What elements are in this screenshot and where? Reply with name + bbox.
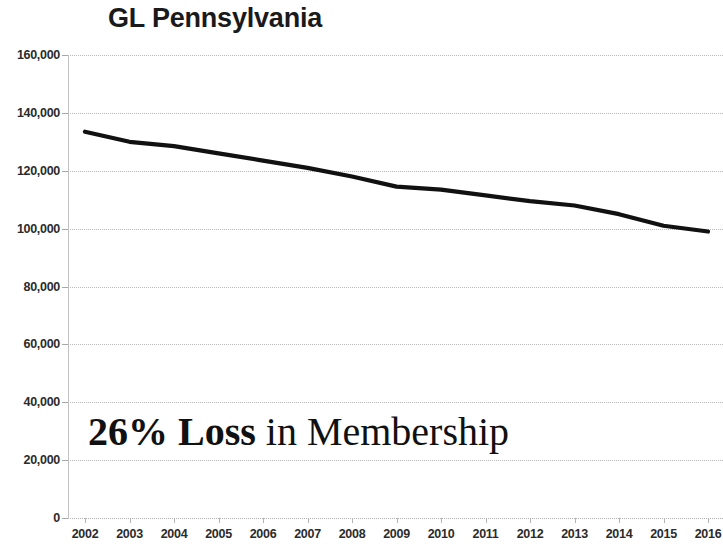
x-tick-2015	[664, 518, 665, 523]
x-tick-2016	[708, 518, 709, 523]
x-tick-2014	[619, 518, 620, 523]
y-axis-label-40000: 40,000	[2, 395, 60, 409]
x-tick-2003	[130, 518, 131, 523]
x-axis-label-2005: 2005	[205, 527, 232, 541]
x-tick-2008	[352, 518, 353, 523]
y-axis-labels: 020,00040,00060,00080,000100,000120,0001…	[0, 0, 60, 552]
chart-title: GL Pennsylvania	[108, 1, 322, 35]
y-axis-label-120000: 120,000	[2, 164, 60, 178]
y-tick-100000	[62, 229, 68, 230]
x-axis-label-2011: 2011	[473, 527, 499, 541]
gridline-60000	[68, 344, 723, 345]
x-axis-label-2010: 2010	[428, 527, 455, 541]
x-tick-2013	[575, 518, 576, 523]
loss-annotation-regular: in Membership	[256, 409, 509, 454]
y-tick-0	[62, 518, 68, 519]
x-axis-label-2012: 2012	[517, 527, 544, 541]
x-tick-2002	[85, 518, 86, 523]
y-axis-label-20000: 20,000	[2, 453, 60, 467]
y-axis-label-60000: 60,000	[2, 337, 60, 351]
x-tick-2010	[441, 518, 442, 523]
gridline-0	[68, 518, 723, 519]
y-tick-40000	[62, 402, 68, 403]
x-axis-label-2004: 2004	[161, 527, 188, 541]
y-axis-label-80000: 80,000	[2, 280, 60, 294]
x-axis-label-2015: 2015	[650, 527, 677, 541]
gridline-140000	[68, 113, 723, 114]
gridline-20000	[68, 460, 723, 461]
x-tick-2004	[174, 518, 175, 523]
y-tick-60000	[62, 344, 68, 345]
x-tick-2005	[219, 518, 220, 523]
y-axis-label-0: 0	[2, 511, 60, 525]
y-tick-160000	[62, 55, 68, 56]
x-tick-2012	[530, 518, 531, 523]
y-axis-label-100000: 100,000	[2, 222, 60, 236]
x-axis-label-2016: 2016	[695, 527, 722, 541]
x-axis-label-2008: 2008	[339, 527, 366, 541]
gridline-120000	[68, 171, 723, 172]
y-tick-20000	[62, 460, 68, 461]
y-tick-80000	[62, 287, 68, 288]
loss-annotation-bold: 26% Loss	[88, 409, 256, 454]
x-axis-label-2003: 2003	[116, 527, 143, 541]
x-axis-label-2014: 2014	[606, 527, 633, 541]
x-tick-2007	[308, 518, 309, 523]
gridline-160000	[68, 55, 723, 56]
gridline-40000	[68, 402, 723, 403]
gridline-80000	[68, 287, 723, 288]
x-tick-2009	[397, 518, 398, 523]
chart-page: GL Pennsylvania 020,00040,00060,00080,00…	[0, 0, 723, 552]
x-tick-2006	[263, 518, 264, 523]
y-tick-140000	[62, 113, 68, 114]
x-axis-label-2002: 2002	[72, 527, 99, 541]
y-tick-120000	[62, 171, 68, 172]
gridline-100000	[68, 229, 723, 230]
loss-annotation: 26% Loss in Membership	[88, 408, 509, 456]
x-axis-label-2009: 2009	[383, 527, 410, 541]
y-axis-label-140000: 140,000	[2, 106, 60, 120]
x-axis-label-2013: 2013	[561, 527, 588, 541]
x-axis-label-2006: 2006	[250, 527, 277, 541]
y-axis-label-160000: 160,000	[2, 48, 60, 62]
y-axis-line	[68, 55, 69, 519]
x-tick-2011	[486, 518, 487, 523]
x-axis-label-2007: 2007	[294, 527, 321, 541]
